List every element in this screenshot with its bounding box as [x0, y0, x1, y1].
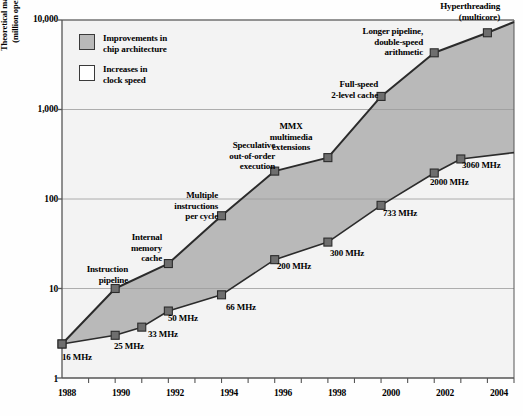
data-point-architecture — [218, 212, 226, 220]
annotation-line3: execution — [240, 161, 275, 171]
legend-swatch-clock — [79, 65, 95, 81]
annotation-line2: pipeline — [99, 275, 128, 285]
data-point-clock-speed — [111, 331, 119, 339]
chart-figure: Theoretical maximum performance (million… — [0, 0, 523, 416]
annotation-line1: MMX — [279, 121, 302, 131]
data-point-clock-speed — [58, 340, 66, 348]
annotation-line1: Instruction — [87, 264, 128, 274]
annotation-line1: Full-speed — [339, 79, 378, 89]
annotation-line2: instructions — [174, 201, 218, 211]
annotation-longer-pipeline-double-speed-arithmetic: Longer pipeline, double-speed arithmetic — [233, 26, 423, 58]
data-label-3060mhz: 3060 MHz — [462, 160, 523, 171]
annotation-line2: multimedia — [270, 132, 313, 142]
data-point-architecture — [324, 154, 332, 162]
data-point-clock-speed — [138, 323, 146, 331]
annotation-line2: double-speed — [374, 37, 423, 47]
data-point-architecture — [377, 92, 385, 100]
annotation-line2: (multicore) — [459, 12, 500, 22]
annotation-line3: cache — [141, 253, 162, 263]
data-label-16mhz: 16 MHz — [62, 352, 132, 363]
data-label-733mhz: 733 MHz — [383, 208, 453, 219]
annotation-line2: memory — [131, 243, 162, 253]
annotation-internal-memory-cache: Internal memory cache — [0, 232, 162, 264]
data-point-architecture — [111, 285, 119, 293]
legend-label-architecture-line2: chip architecture — [103, 44, 167, 55]
data-label-300mhz: 300 MHz — [330, 248, 400, 259]
data-point-clock-speed — [324, 238, 332, 246]
annotation-instruction-pipeline: Instruction pipeline — [0, 264, 128, 285]
data-point-clock-speed — [430, 169, 438, 177]
data-label-2000mhz: 2000 MHz — [430, 177, 500, 188]
chart-legend: Improvements in chip architecture Increa… — [79, 33, 167, 95]
legend-entry-clock: Increases in clock speed — [79, 64, 167, 86]
legend-entry-architecture: Improvements in chip architecture — [79, 33, 167, 55]
data-label-33mhz: 33 MHz — [148, 329, 218, 340]
annotation-line1: Multiple — [186, 190, 218, 200]
annotation-line3: extensions — [272, 142, 310, 152]
data-label-66mhz: 66 MHz — [226, 302, 296, 313]
annotation-full-speed-2-level-cache: Full-speed 2-level cache — [188, 79, 378, 100]
data-point-architecture — [164, 260, 172, 268]
annotation-line3: per cycle — [185, 211, 218, 221]
data-point-architecture — [430, 49, 438, 57]
legend-swatch-architecture — [79, 34, 95, 50]
data-label-200mhz: 200 MHz — [277, 261, 347, 272]
legend-label-architecture-line1: Improvements in — [103, 33, 167, 44]
data-label-50mhz: 50 MHz — [168, 313, 238, 324]
annotation-line3: arithmetic — [385, 47, 423, 57]
annotation-line2: 2-level cache — [331, 90, 378, 100]
annotation-line1: Hyperthreading — [440, 1, 500, 11]
annotation-multiple-instructions-per-cycle: Multiple instructions per cycle — [28, 190, 218, 222]
annotation-hyperthreading-multicore: Hyperthreading (multicore) — [310, 1, 500, 22]
data-point-clock-speed — [218, 291, 226, 299]
legend-label-clock-line2: clock speed — [103, 75, 147, 86]
annotation-line1: Longer pipeline, — [363, 26, 423, 36]
legend-label-clock-line1: Increases in — [103, 64, 147, 75]
data-point-architecture — [483, 29, 491, 37]
data-label-25mhz: 25 MHz — [114, 341, 184, 352]
annotation-mmx-multimedia-extensions: MMX multimedia extensions — [232, 121, 350, 153]
annotation-line1: Internal — [132, 232, 162, 242]
